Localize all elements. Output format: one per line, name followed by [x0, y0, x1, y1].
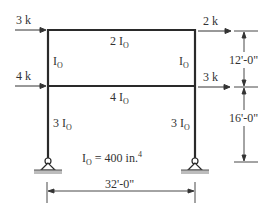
coef: 3 [171, 116, 177, 130]
subscript: O [183, 61, 189, 70]
upper-right-column-inertia: IO [179, 55, 189, 69]
subscript: O [123, 97, 129, 106]
load-label: 3 k [16, 14, 31, 26]
load-label: 3 k [203, 71, 218, 83]
subscript: O [57, 61, 63, 70]
lower-left-column-inertia: 3 IO [53, 117, 72, 131]
upper-height-dimension: 12'-0" [228, 54, 259, 66]
subscript: O [184, 123, 190, 132]
superscript: 4 [138, 150, 142, 159]
span-dimension: 32'-0" [103, 178, 136, 190]
coef: 2 [110, 34, 116, 48]
coef: 3 [53, 116, 59, 130]
coef: 4 [110, 90, 116, 104]
inertia-value-note: IO = 400 in.4 [82, 152, 142, 166]
subscript: O [86, 158, 92, 167]
subscript: O [123, 41, 129, 50]
lower-right-column-inertia: 3 IO [171, 117, 190, 131]
upper-left-column-inertia: IO [53, 55, 63, 69]
load-label: 2 k [203, 15, 218, 27]
vertical-dimension [234, 31, 258, 162]
value: = 400 in. [92, 151, 138, 165]
lower-height-dimension: 16'-0" [228, 112, 259, 124]
top-beam-inertia: 2 IO [110, 35, 129, 49]
load-label: 4 k [16, 70, 31, 82]
right-pin-support [181, 158, 209, 174]
subscript: O [66, 123, 72, 132]
left-pin-support [34, 158, 62, 174]
mid-beam-inertia: 4 IO [110, 91, 129, 105]
